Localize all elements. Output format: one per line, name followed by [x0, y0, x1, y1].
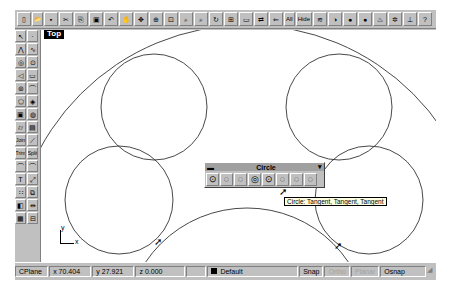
- render-preview-icon[interactable]: ●: [358, 12, 372, 26]
- surface-icon[interactable]: ◈: [27, 95, 38, 107]
- snap-toggle[interactable]: Snap: [299, 266, 323, 277]
- dimension-grid-icon[interactable]: ⊟: [27, 212, 38, 224]
- osnap-toggle[interactable]: Osnap: [380, 266, 426, 277]
- polyline-icon[interactable]: ⋀: [15, 43, 26, 55]
- resize-grip-icon[interactable]: ◢: [427, 266, 436, 277]
- help-icon[interactable]: ?: [418, 12, 432, 26]
- transform-icon[interactable]: ⧉: [27, 186, 38, 198]
- x-coordinate: x 70.404: [49, 266, 91, 277]
- zoom-extents-icon[interactable]: ⌕: [194, 12, 208, 26]
- circle-toolbar-titlebar[interactable]: ▬ Circle ▾: [205, 163, 324, 171]
- zoom-target-icon[interactable]: ⌕: [179, 12, 193, 26]
- lock-icon[interactable]: ⇄: [254, 12, 268, 26]
- toolbar-row: ⊚⌒: [15, 82, 39, 94]
- zoom-window-icon[interactable]: ⊡: [164, 12, 178, 26]
- circle-fit-points-icon[interactable]: ◌: [290, 173, 303, 186]
- grid-array-icon[interactable]: ▦: [15, 212, 26, 224]
- cplane-label[interactable]: CPlane: [15, 266, 48, 277]
- render-icon[interactable]: ●: [343, 12, 357, 26]
- point-icon[interactable]: ·: [27, 30, 38, 42]
- copy-icon[interactable]: ⎘: [74, 12, 88, 26]
- rhino-window: ▯📂▪✂⎘▣↶✋✥⊕⊡⌕⌕↻⊞▭⇄⇐AllHide≋◑●●♨✲⊥? ↖·⋀∿◎⊙…: [15, 10, 436, 280]
- polygon-icon[interactable]: ⬠: [15, 95, 26, 107]
- trim-button[interactable]: Trim: [15, 147, 26, 159]
- circle-curve[interactable]: [286, 54, 392, 160]
- rotate-view-icon[interactable]: ✥: [134, 12, 148, 26]
- text-icon[interactable]: T: [15, 173, 26, 185]
- array-icon[interactable]: ∷: [15, 186, 26, 198]
- undo-icon[interactable]: ↶: [104, 12, 118, 26]
- light-icon[interactable]: ♨: [373, 12, 387, 26]
- circle-vertical-icon[interactable]: ◌: [304, 173, 317, 186]
- circle-3point-icon[interactable]: ◌: [234, 173, 247, 186]
- circle-tangent-tangent-tangent-icon[interactable]: ◌: [276, 173, 289, 186]
- toolbar-row: ▣◍: [15, 108, 39, 120]
- viewport-top[interactable]: Top y x ➚ ➚ ▬ Circle ▾ ⊙◌◌◎⊙◌◌◌ ➚ Circle…: [40, 30, 436, 262]
- fillet-curve-icon[interactable]: ⌒: [27, 82, 38, 94]
- show-all-button[interactable]: All: [284, 12, 295, 26]
- layer-icon[interactable]: ⇐: [269, 12, 283, 26]
- solid-icon[interactable]: ▤: [27, 121, 38, 133]
- toolbar-row: T⤢: [15, 173, 39, 185]
- paste-icon[interactable]: ▣: [89, 12, 103, 26]
- viewport-title[interactable]: Top: [44, 30, 64, 39]
- circle-icon[interactable]: ◎: [15, 56, 26, 68]
- circle-curve[interactable]: [101, 54, 207, 160]
- toolbar-row: ⋀∿: [15, 43, 39, 55]
- options-gear-icon[interactable]: ✲: [388, 12, 402, 26]
- blend-icon[interactable]: ⌒: [15, 160, 26, 172]
- split-button[interactable]: Split: [27, 147, 38, 159]
- axis-y-label: y: [61, 224, 65, 231]
- planar-toggle[interactable]: Planar: [351, 266, 379, 277]
- outer-arc-curve[interactable]: [41, 30, 436, 262]
- hide-button[interactable]: Hide: [296, 12, 312, 26]
- extend-icon[interactable]: ⟋: [27, 134, 38, 146]
- toolbar-row: ◎⊙: [15, 56, 39, 68]
- zoom-all-icon[interactable]: ↻: [209, 12, 223, 26]
- y-coordinate: y 27.921: [92, 266, 134, 277]
- pan-hand-icon[interactable]: ✋: [119, 12, 133, 26]
- offset-icon[interactable]: ⌒: [27, 160, 38, 172]
- sphere-icon[interactable]: ◍: [27, 108, 38, 120]
- arc-icon[interactable]: ◁: [15, 69, 26, 81]
- dimension-icon[interactable]: ⊥: [403, 12, 417, 26]
- toolbar-row: ▦⊟: [15, 212, 39, 224]
- cylinder-icon[interactable]: ⌭: [15, 121, 26, 133]
- status-bar: CPlane x 70.404 y 27.921 z 0.000 Default…: [15, 262, 436, 279]
- mirror-icon[interactable]: ⇹: [27, 199, 38, 211]
- circle-center-radius-icon[interactable]: ⊙: [206, 173, 219, 186]
- circle-diameter-icon[interactable]: ◌: [220, 173, 233, 186]
- toolbar-row: ◁▭: [15, 69, 39, 81]
- ortho-toggle[interactable]: Ortho: [324, 266, 350, 277]
- rectangle-icon[interactable]: ▭: [27, 69, 38, 81]
- current-layer[interactable]: Default: [207, 266, 298, 277]
- save-icon[interactable]: ▪: [44, 12, 58, 26]
- circle-tangent-tangent-radius-icon[interactable]: ◎: [248, 173, 261, 186]
- toolbar-row: ⬠◈: [15, 95, 39, 107]
- cut-icon[interactable]: ✂: [59, 12, 73, 26]
- toolbar-menu-icon[interactable]: ▬: [207, 164, 214, 171]
- scale-icon[interactable]: ⤢: [27, 173, 38, 185]
- join-button[interactable]: Join: [15, 134, 26, 146]
- curve-icon[interactable]: ∿: [27, 43, 38, 55]
- layer-color-swatch: [211, 268, 217, 274]
- ellipse-icon[interactable]: ⊚: [15, 82, 26, 94]
- select-arrow-icon[interactable]: ↖: [15, 30, 26, 42]
- new-icon[interactable]: ▯: [17, 12, 31, 26]
- shaded-icon[interactable]: ◑: [328, 12, 342, 26]
- bottom-arc-curve[interactable]: [125, 208, 369, 262]
- box-icon[interactable]: ▣: [15, 108, 26, 120]
- boolean-icon[interactable]: ◧: [15, 199, 26, 211]
- mouse-cursor-icon: ➚: [279, 187, 287, 197]
- mouse-cursor-icon: ➚: [154, 237, 162, 247]
- grid-icon[interactable]: ▭: [239, 12, 253, 26]
- circle-around-curve-icon[interactable]: ⊙: [262, 173, 275, 186]
- open-icon[interactable]: 📂: [32, 12, 43, 26]
- circle-alt-icon[interactable]: ⊙: [27, 56, 38, 68]
- toolbar-dropdown-icon[interactable]: ▾: [318, 163, 322, 171]
- mouse-cursor-icon: ➚: [334, 241, 342, 251]
- zoom-dynamic-icon[interactable]: ⊕: [149, 12, 163, 26]
- layers-icon[interactable]: ≋: [313, 12, 327, 26]
- toolbar-row: TrimSplit: [15, 147, 39, 159]
- four-viewports-icon[interactable]: ⊞: [224, 12, 238, 26]
